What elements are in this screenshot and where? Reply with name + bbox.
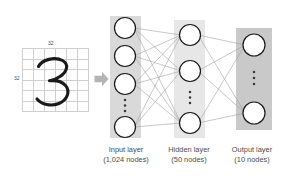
node [180, 61, 201, 82]
node [180, 113, 201, 134]
input-layer-title: Input layer [109, 145, 144, 154]
vertical-ellipsis-icon [124, 99, 127, 113]
node [115, 74, 136, 95]
input-layer-nodes [115, 18, 136, 138]
node [180, 25, 201, 46]
input-layer-subtitle: (1,024 nodes) [95, 155, 157, 165]
hidden-layer-subtitle: (50 nodes) [158, 155, 220, 165]
hidden-layer-title: Hidden layer [168, 145, 210, 154]
hidden-layer-nodes [180, 25, 201, 134]
input-to-hidden-connections [134, 28, 181, 127]
node [243, 34, 265, 56]
vertical-ellipsis-icon [189, 91, 192, 105]
node [115, 18, 136, 39]
input-layer-caption: Input layer (1,024 nodes) [95, 145, 157, 165]
output-layer-subtitle: (10 nodes) [221, 155, 283, 165]
output-layer-title: Output layer [232, 145, 272, 154]
node [115, 46, 136, 67]
hidden-layer-caption: Hidden layer (50 nodes) [158, 145, 220, 165]
node [243, 102, 265, 124]
node [115, 117, 136, 138]
neural-network-diagram: 32 32 [0, 0, 290, 179]
output-layer-caption: Output layer (10 nodes) [221, 145, 283, 165]
